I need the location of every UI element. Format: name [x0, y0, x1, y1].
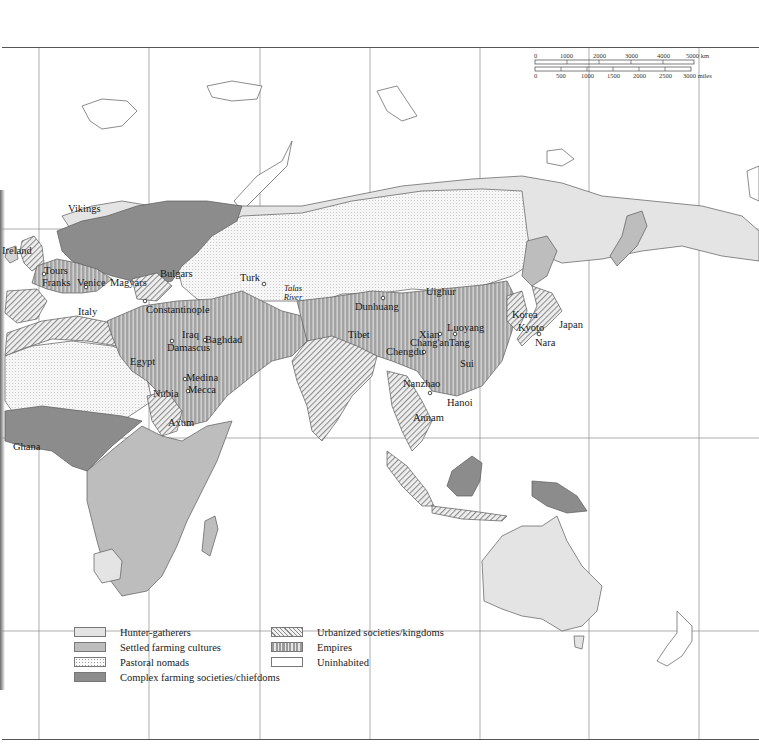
region-java [432, 506, 507, 521]
region-india [292, 336, 377, 441]
legend-left: Hunter-gatherers Settled farming culture… [74, 625, 280, 685]
legend-label: Empires [317, 642, 352, 653]
label-hanoi: Hanoi [447, 398, 473, 409]
legend-item-complex-farming: Complex farming societies/chiefdoms [74, 670, 280, 685]
label-dunhuang: Dunhuang [355, 302, 399, 313]
svalbard [82, 99, 137, 129]
legend-item-urbanized: Urbanized societies/kingdoms [271, 625, 444, 640]
new-zealand [657, 611, 692, 666]
legend-right: Urbanized societies/kingdoms Empires Uni… [271, 625, 444, 670]
scale-km-1000: 1000 [560, 52, 573, 59]
legend-label: Urbanized societies/kingdoms [317, 627, 444, 638]
label-franks: Franks [42, 278, 71, 289]
greenland-edge [747, 166, 759, 201]
scale-km-5000: 5000 km [686, 52, 709, 59]
label-korea: Korea [512, 310, 538, 321]
swatch-hunter-gatherers [74, 627, 106, 637]
severnaya-zemlya [377, 86, 417, 121]
label-constantinople: Constantinople [146, 305, 210, 316]
legend-label: Hunter-gatherers [120, 627, 191, 638]
scale-mi-1500: 1500 [607, 72, 620, 79]
scale-km-4000: 4000 [657, 52, 670, 59]
legend-label: Pastoral nomads [120, 657, 189, 668]
scale-km-0: 0 [534, 52, 537, 59]
label-magyars: Magyars [110, 278, 147, 289]
novaya-zemlya [234, 141, 292, 211]
swatch-settled-farming [74, 642, 106, 652]
label-talas-river: Talas River [281, 284, 305, 302]
scale-mi-1000: 1000 [581, 72, 594, 79]
scale-km-3000: 3000 [625, 52, 638, 59]
scale-bar: 0 1000 2000 3000 4000 5000 km 0 500 1000… [530, 50, 759, 80]
label-tang: Tang [449, 338, 470, 349]
label-italy: Italy [78, 307, 97, 318]
legend-item-pastoral-nomads: Pastoral nomads [74, 655, 280, 670]
label-ghana: Ghana [13, 442, 40, 453]
label-kyoto: Kyoto [518, 323, 544, 334]
label-tibet: Tibet [348, 330, 370, 341]
label-ireland: Ireland [2, 246, 32, 257]
label-damascus: Damascus [167, 343, 210, 354]
label-sui: Sui [460, 359, 474, 370]
swatch-empires [271, 642, 303, 652]
swatch-uninhabited [271, 657, 303, 667]
scale-km-2000: 2000 [593, 52, 606, 59]
label-iraq: Iraq [182, 330, 199, 341]
label-nara: Nara [535, 338, 555, 349]
region-sumatra [387, 451, 434, 506]
legend-label: Uninhabited [317, 657, 369, 668]
scale-mi-0: 0 [534, 72, 537, 79]
scale-mi-2000: 2000 [633, 72, 646, 79]
region-australia [482, 516, 602, 631]
label-bulgars: Bulgars [160, 269, 193, 280]
label-annam: Annam [413, 413, 444, 424]
swatch-complex-farming [74, 672, 106, 682]
label-chengdu: Chengdu [386, 347, 424, 358]
label-baghdad: Baghdad [205, 335, 242, 346]
label-vikings: Vikings [68, 204, 101, 215]
label-mecca: Mecca [188, 385, 216, 396]
legend-item-uninhabited: Uninhabited [271, 655, 444, 670]
label-japan: Japan [559, 320, 583, 331]
label-tours: Tours [44, 266, 68, 277]
label-egypt: Egypt [130, 357, 155, 368]
new-siberian [547, 149, 574, 166]
label-turk: Turk [240, 273, 260, 284]
label-axum: Axum [168, 418, 194, 429]
legend-label: Complex farming societies/chiefdoms [120, 672, 280, 683]
scale-mi-500: 500 [556, 72, 566, 79]
swatch-urbanized [271, 627, 303, 637]
label-luoyang: Luoyang [447, 323, 484, 334]
legend-item-empires: Empires [271, 640, 444, 655]
label-nanzhao: Nanzhao [403, 379, 440, 390]
scale-mi-2500: 2500 [659, 72, 672, 79]
scale-mi-3000: 3000 miles [683, 72, 712, 79]
madagascar [202, 516, 218, 556]
region-iberia [5, 289, 47, 323]
tasmania [574, 636, 584, 649]
region-manchuria [522, 236, 557, 286]
swatch-pastoral-nomads [74, 657, 106, 667]
legend-item-settled-farming: Settled farming cultures [74, 640, 280, 655]
label-venice: Venice [77, 278, 106, 289]
label-nubia: Nubia [153, 389, 179, 400]
franz-josef [207, 81, 262, 101]
region-new-guinea [532, 481, 587, 513]
label-uighur: Uighur [426, 287, 456, 298]
legend-label: Settled farming cultures [120, 642, 221, 653]
label-medina: Medina [186, 373, 218, 384]
region-borneo [447, 456, 482, 496]
legend-item-hunter-gatherers: Hunter-gatherers [74, 625, 280, 640]
